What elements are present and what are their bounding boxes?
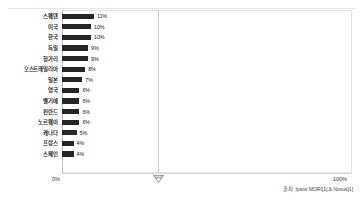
bar-row: 독일9% xyxy=(0,43,363,54)
bar xyxy=(62,120,79,125)
bar-value-label: 6% xyxy=(82,87,90,93)
bar-rows: 스웨덴11%미국10%한국10%독일9%헝가리9%오스트레일리아8%일본7%영국… xyxy=(0,11,363,159)
bar xyxy=(62,77,82,82)
category-label: 미국 xyxy=(0,24,62,30)
bar-value-label: 9% xyxy=(91,56,99,62)
category-label: 헝가리 xyxy=(0,56,62,62)
category-label: 영국 xyxy=(0,87,62,93)
bar xyxy=(62,24,91,29)
category-label: 핀란드 xyxy=(0,109,62,115)
bar-value-label: 4% xyxy=(77,151,85,157)
bar-value-label: 10% xyxy=(94,24,105,30)
bar xyxy=(62,45,88,50)
bar-row: 일본7% xyxy=(0,75,363,86)
bar-row: 미국10% xyxy=(0,22,363,33)
source-attribution: 출처: Ipsos MORI[1] & Novus[1] xyxy=(283,185,353,192)
bar-track: 5% xyxy=(62,128,363,139)
bar-row: 노르웨이6% xyxy=(0,117,363,128)
top-divider xyxy=(8,8,355,9)
category-label: 캐나다 xyxy=(0,130,62,136)
bar-value-label: 5% xyxy=(80,130,88,136)
bar-value-label: 9% xyxy=(91,45,99,51)
bar-value-label: 6% xyxy=(82,98,90,104)
category-label: 일본 xyxy=(0,77,62,83)
bar-track: 10% xyxy=(62,32,363,43)
bar-track: 9% xyxy=(62,43,363,54)
bar-value-label: 11% xyxy=(97,13,107,19)
category-label: 프랑스 xyxy=(0,140,62,146)
bar-value-label: 6% xyxy=(82,119,90,125)
bar xyxy=(62,56,88,61)
bar-track: 7% xyxy=(62,75,363,86)
bar-track: 4% xyxy=(62,138,363,149)
bar-row: 캐나다5% xyxy=(0,128,363,139)
bar-track: 6% xyxy=(62,106,363,117)
category-label: 한국 xyxy=(0,34,62,40)
bar-track: 11% xyxy=(62,11,363,22)
bar-row: 한국10% xyxy=(0,32,363,43)
axis-tick-right: 100% xyxy=(333,176,347,182)
category-label: 노르웨이 xyxy=(0,119,62,125)
bar-row: 프랑스4% xyxy=(0,138,363,149)
bar xyxy=(62,130,77,135)
bar-value-label: 8% xyxy=(88,66,96,72)
category-label: 벨기에 xyxy=(0,98,62,104)
bar-track: 6% xyxy=(62,85,363,96)
bar xyxy=(62,35,91,40)
bar-row: 헝가리9% xyxy=(0,53,363,64)
bar-track: 6% xyxy=(62,96,363,107)
chart-slide: 스웨덴11%미국10%한국10%독일9%헝가리9%오스트레일리아8%일본7%영국… xyxy=(0,0,363,202)
bar-track: 4% xyxy=(62,149,363,160)
value-axis-baseline xyxy=(62,173,352,174)
bar xyxy=(62,141,74,146)
diamond-marker-icon xyxy=(152,173,165,184)
bar xyxy=(62,14,94,19)
bar xyxy=(62,67,85,72)
bar-track: 10% xyxy=(62,22,363,33)
bar-track: 9% xyxy=(62,53,363,64)
bar xyxy=(62,88,79,93)
bar-value-label: 10% xyxy=(94,34,105,40)
bar-row: 벨기에6% xyxy=(0,96,363,107)
bar-track: 8% xyxy=(62,64,363,75)
bar xyxy=(62,109,79,114)
category-label: 스웨덴 xyxy=(0,13,62,19)
bar-track: 6% xyxy=(62,117,363,128)
bar-row: 스페인4% xyxy=(0,149,363,160)
bar-value-label: 7% xyxy=(85,77,93,83)
bar-row: 스웨덴11% xyxy=(0,11,363,22)
bar xyxy=(62,151,74,156)
bar xyxy=(62,98,79,103)
category-label: 독일 xyxy=(0,45,62,51)
bar-row: 오스트레일리아8% xyxy=(0,64,363,75)
bar-value-label: 4% xyxy=(77,140,85,146)
category-label: 오스트레일리아 xyxy=(0,66,62,72)
bar-row: 영국6% xyxy=(0,85,363,96)
bar-row: 핀란드6% xyxy=(0,106,363,117)
bar-value-label: 6% xyxy=(82,109,90,115)
category-label: 스페인 xyxy=(0,151,62,157)
axis-tick-left: 0% xyxy=(52,176,60,182)
